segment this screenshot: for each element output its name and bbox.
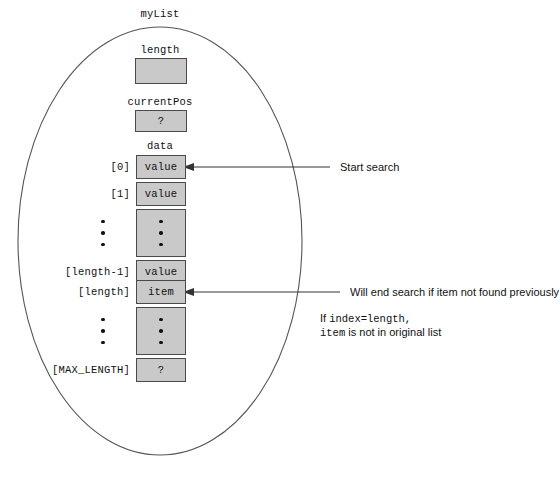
ellipsis-dot (101, 341, 105, 345)
array-index-0: [0] (38, 161, 130, 173)
ellipsis-dot (101, 231, 105, 235)
array-cell-ellipsis-1 (136, 209, 186, 257)
ellipsis-dot (159, 220, 163, 224)
array-cell-1: value (136, 182, 186, 206)
field-label-data: data (100, 140, 220, 152)
start-search-arrow (183, 163, 330, 171)
note-line-1-prefix: If (320, 312, 329, 324)
ellipsis-dot (159, 243, 163, 247)
array-cell-0-value: value (145, 161, 178, 173)
ellipsis-dot (159, 341, 163, 345)
array-ellipsis-outer-2 (98, 307, 108, 355)
array-cell-length-minus-1-value: value (145, 266, 178, 278)
note-line-2-suffix: is not in original list (345, 326, 441, 338)
note-line-2-code: item (320, 327, 345, 339)
array-cell-max-length: ? (136, 358, 186, 382)
field-label-currentpos: currentPos (100, 96, 220, 108)
array-index-1: [1] (38, 188, 130, 200)
array-index-max-length: [MAX_LENGTH] (20, 364, 130, 376)
array-cell-length: item (136, 280, 186, 304)
note-line-1-code: index=length, (329, 313, 411, 325)
note-line-2: item is not in original list (320, 326, 441, 339)
ellipsis-dot (159, 329, 163, 333)
ellipsis-dot (159, 231, 163, 235)
array-ellipsis-outer-1 (98, 209, 108, 257)
end-search-arrow (183, 288, 340, 296)
array-cell-max-length-value: ? (158, 364, 165, 376)
array-index-length-minus-1: [length-1] (38, 266, 130, 278)
array-cell-0: value (136, 155, 186, 179)
field-value-currentpos: ? (158, 115, 165, 127)
field-box-length (135, 58, 187, 84)
array-cell-length-value: item (148, 286, 174, 298)
field-box-currentpos: ? (135, 110, 187, 132)
ellipsis-dot (101, 329, 105, 333)
ellipsis-dot (101, 318, 105, 322)
ellipsis-dot (101, 243, 105, 247)
ellipsis-dot (101, 220, 105, 224)
annotation-end-search: Will end search if item not found previo… (350, 286, 559, 298)
array-index-length: [length] (38, 286, 130, 298)
array-cell-1-value: value (145, 188, 178, 200)
array-cell-ellipsis-2 (136, 307, 186, 355)
annotation-start-search: Start search (340, 161, 399, 173)
note-line-1: If index=length, (320, 312, 411, 325)
diagram-title: myList (100, 8, 220, 20)
field-label-length: length (100, 44, 220, 56)
ellipsis-dot (159, 318, 163, 322)
